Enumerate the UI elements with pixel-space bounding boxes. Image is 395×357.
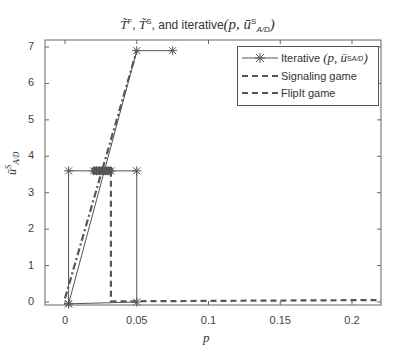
x-tick-label: 0: [53, 314, 77, 326]
legend-item-iterative: Iterative (p, ūSA/D): [242, 50, 368, 66]
x-axis-label: p: [203, 330, 210, 346]
legend-item-flipit: FlipIt game: [242, 85, 335, 101]
dashdot-line-icon: [242, 88, 278, 98]
y-tick-label: 2: [28, 222, 34, 234]
legend-item-signaling: Signaling game: [242, 68, 357, 84]
signaling-line: [111, 171, 381, 301]
x-tick-label: 0.2: [340, 314, 364, 326]
y-tick-label: 6: [28, 76, 34, 88]
y-tick-label: 7: [28, 40, 34, 52]
y-tick-label: 0: [28, 295, 34, 307]
legend-iterative-label: Iterative: [281, 52, 320, 64]
legend-signaling-label: Signaling game: [281, 70, 357, 82]
ylabel-sub: A/D: [12, 152, 21, 165]
y-tick-label: 3: [28, 186, 34, 198]
dashed-line-icon: [242, 71, 278, 81]
ylabel-base: ū: [5, 169, 19, 175]
x-tick-label: 0.15: [268, 314, 292, 326]
y-tick-label: 5: [28, 113, 34, 125]
asterisk-line-icon: [242, 53, 278, 63]
iterative-cluster: [92, 167, 113, 175]
x-tick-label: 0.05: [125, 314, 149, 326]
legend: Iterative (p, ūSA/D) Signaling game Flip…: [237, 46, 379, 106]
iterative-line: [69, 51, 173, 304]
legend-iterative-sub: A/D: [352, 55, 364, 62]
y-tick-label: 1: [28, 259, 34, 271]
x-tick-label: 0.1: [197, 314, 221, 326]
legend-iterative-math: (p, ū: [323, 50, 347, 66]
y-tick-label: 4: [28, 149, 34, 161]
legend-iterative-close: ): [363, 50, 367, 66]
ylabel-sup: S: [4, 165, 13, 169]
y-axis-label: ūSA/D: [4, 152, 21, 175]
legend-flipit-label: FlipIt game: [281, 87, 335, 99]
